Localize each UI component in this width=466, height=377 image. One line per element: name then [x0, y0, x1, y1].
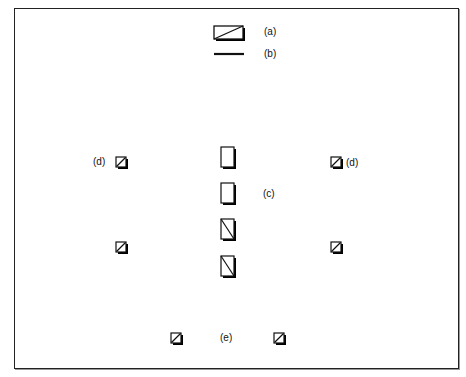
group-e-square-left	[171, 333, 183, 345]
label-a: (a)	[264, 27, 276, 37]
label-c: (c)	[263, 189, 275, 199]
legend-shape-a	[214, 26, 245, 41]
group-d-square-top-right	[331, 157, 343, 169]
label-d-left: (d)	[93, 157, 105, 167]
label-e: (e)	[220, 333, 232, 343]
group-c-rect-3	[221, 219, 236, 241]
group-d-square-bottom-right	[331, 242, 343, 254]
group-d-square-top-left	[116, 157, 128, 169]
group-c-rect-4	[221, 256, 236, 278]
group-e-square-right	[274, 333, 286, 345]
group-c-rect-1	[221, 147, 236, 169]
diagram-canvas	[0, 0, 466, 377]
group-c-rect-2	[221, 183, 236, 205]
group-d-square-bottom-left	[116, 242, 128, 254]
label-b: (b)	[264, 49, 276, 59]
label-d-right: (d)	[346, 158, 358, 168]
